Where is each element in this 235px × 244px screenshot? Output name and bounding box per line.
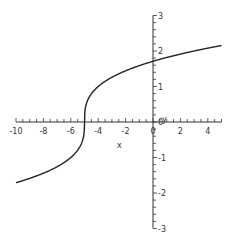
y-tick-label: 2 xyxy=(158,47,163,56)
function-curve xyxy=(16,46,222,183)
plot-area: -10-8-6-4-2024-3-2-10123 x y xyxy=(0,0,235,244)
y-tick-label: 1 xyxy=(158,83,163,92)
y-tick-label: -1 xyxy=(158,154,166,163)
x-tick-label: 0 xyxy=(150,127,155,136)
y-axis-label: y xyxy=(162,115,167,124)
x-tick-label: 2 xyxy=(178,127,183,136)
x-tick-label: -6 xyxy=(67,127,75,136)
x-tick-label: -8 xyxy=(39,127,47,136)
x-tick-label: -10 xyxy=(9,127,22,136)
x-tick-label: 4 xyxy=(205,127,210,136)
y-tick-label: 3 xyxy=(158,12,163,21)
y-tick-label: -2 xyxy=(158,189,166,198)
x-tick-label: -2 xyxy=(122,127,130,136)
x-axis-label: x xyxy=(117,141,122,150)
y-tick-label: -3 xyxy=(158,225,166,234)
x-tick-label: -4 xyxy=(94,127,102,136)
